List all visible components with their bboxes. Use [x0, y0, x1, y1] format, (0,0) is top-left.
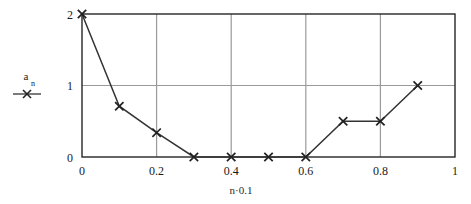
x-axis-title: n·0.1: [230, 184, 253, 196]
chart-figure: 00.20.40.60.81 012 n·0.1 a n: [0, 0, 471, 204]
y-tick-label: 0: [67, 151, 73, 165]
x-tick-label: 0.4: [224, 164, 239, 178]
x-axis-tick-labels: 00.20.40.60.81: [79, 164, 458, 178]
x-tick-label: 0.2: [149, 164, 164, 178]
x-tick-label: 0: [79, 164, 85, 178]
legend: a n: [13, 70, 41, 98]
x-tick-label: 1: [452, 164, 458, 178]
x-tick-label: 0.8: [373, 164, 388, 178]
x-tick-label: 0.6: [298, 164, 313, 178]
legend-label-a: a: [24, 70, 29, 82]
line-chart: 00.20.40.60.81 012 n·0.1 a n: [0, 0, 471, 204]
y-tick-label: 1: [67, 79, 73, 93]
legend-label-subscript-n: n: [31, 79, 35, 88]
y-tick-label: 2: [67, 8, 73, 22]
y-axis-tick-labels: 012: [67, 8, 73, 165]
